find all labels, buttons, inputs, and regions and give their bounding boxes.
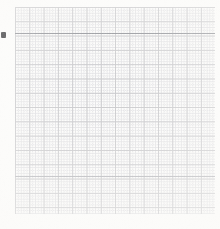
scanned-grid-paper-image [0,0,220,229]
ink-blot-mark [1,32,6,38]
secondary-horizontal-rule [15,176,215,177]
major-gridlines-layer [15,7,215,214]
dark-horizontal-rule [15,33,215,34]
grid-area [15,7,215,214]
